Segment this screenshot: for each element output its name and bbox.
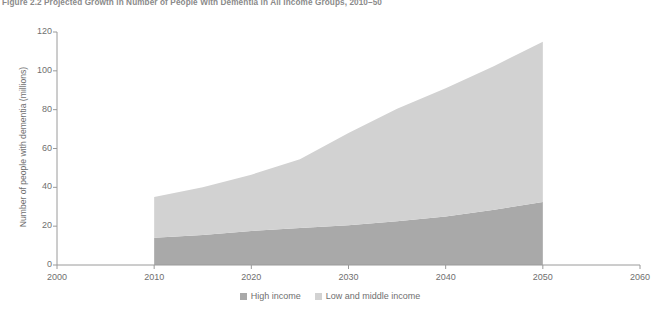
y-tick-label-40: 40 — [14, 181, 52, 191]
y-tick-label-80: 80 — [14, 104, 52, 114]
y-tick-label-60: 60 — [14, 143, 52, 153]
chart-area: Number of people with dementia (millions… — [0, 0, 660, 313]
y-tick-label-0: 0 — [14, 259, 52, 269]
x-tick-label-2020: 2020 — [226, 272, 276, 282]
x-tick-label-2050: 2050 — [518, 272, 568, 282]
area-series-1 — [154, 42, 543, 238]
plot-svg — [0, 0, 660, 313]
y-tick-label-120: 120 — [14, 26, 52, 36]
x-tick-label-2060: 2060 — [615, 272, 660, 282]
stacked-areas — [154, 42, 543, 265]
x-tick-label-2030: 2030 — [324, 272, 374, 282]
y-tick-label-100: 100 — [14, 65, 52, 75]
chart-legend: High income Low and middle income — [0, 291, 660, 301]
legend-label-high-income: High income — [251, 291, 301, 301]
legend-item-high-income[interactable]: High income — [240, 291, 301, 301]
legend-label-low-middle-income: Low and middle income — [326, 291, 421, 301]
y-tick-label-20: 20 — [14, 220, 52, 230]
x-tick-label-2040: 2040 — [421, 272, 471, 282]
legend-item-low-middle-income[interactable]: Low and middle income — [315, 291, 421, 301]
high-income-swatch — [240, 293, 247, 300]
x-tick-label-2010: 2010 — [129, 272, 179, 282]
low-middle-income-swatch — [315, 293, 322, 300]
x-tick-label-2000: 2000 — [32, 272, 82, 282]
